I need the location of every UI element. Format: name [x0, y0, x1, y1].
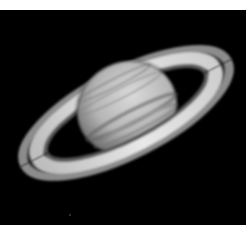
- saturn-photo: [0, 0, 249, 237]
- star-speck: [69, 214, 71, 216]
